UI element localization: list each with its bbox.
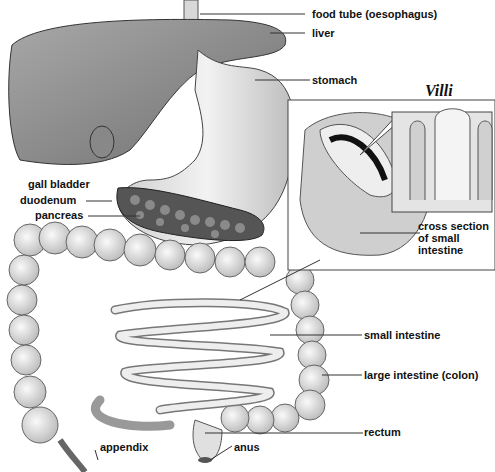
label-duodenum: duodenum	[20, 194, 76, 206]
label-large-intestine: large intestine (colon)	[364, 369, 478, 381]
gall-bladder	[90, 126, 114, 158]
label-cross-section-2: of small	[418, 232, 460, 244]
label-rectum: rectum	[364, 426, 401, 438]
label-pancreas: pancreas	[35, 209, 83, 221]
label-gall-bladder: gall bladder	[28, 178, 90, 190]
label-small-intestine: small intestine	[364, 329, 440, 341]
label-cross-section-3: intestine	[418, 244, 463, 256]
label-appendix: appendix	[100, 441, 148, 453]
label-anus: anus	[234, 441, 260, 453]
label-cross-section-1: cross section	[418, 220, 489, 232]
label-food-tube: food tube (oesophagus)	[312, 8, 437, 20]
villi-inset	[288, 100, 495, 270]
rectum	[193, 420, 222, 463]
label-liver: liver	[312, 27, 335, 39]
appendix	[60, 440, 85, 472]
anus	[198, 457, 212, 463]
villi-title: Villi	[425, 82, 453, 100]
digestive-system-diagram: food tube (oesophagus) liver stomach Vil…	[0, 0, 495, 472]
label-stomach: stomach	[312, 74, 357, 86]
